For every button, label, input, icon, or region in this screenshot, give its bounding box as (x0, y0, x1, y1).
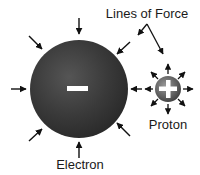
electron (30, 40, 128, 138)
lines-of-force-callout (138, 24, 163, 54)
arrow-icon (29, 129, 42, 141)
lines-of-force-label: Lines of Force (106, 6, 188, 21)
arrow-icon (117, 123, 130, 136)
proton (155, 76, 181, 102)
callout-arrow-icon (138, 24, 147, 35)
arrow-icon (117, 42, 130, 54)
arrow-icon (29, 36, 42, 49)
electron-label: Electron (56, 157, 104, 172)
arrow-icon (178, 99, 185, 106)
minus-sign-icon (67, 86, 88, 91)
arrow-icon (178, 72, 185, 79)
callout-arrow-icon (147, 24, 163, 54)
arrow-icon (151, 72, 158, 79)
proton-label: Proton (149, 117, 187, 132)
arrow-icon (151, 99, 158, 106)
electric-field-diagram: Lines of Force Proton Electron (0, 0, 200, 175)
